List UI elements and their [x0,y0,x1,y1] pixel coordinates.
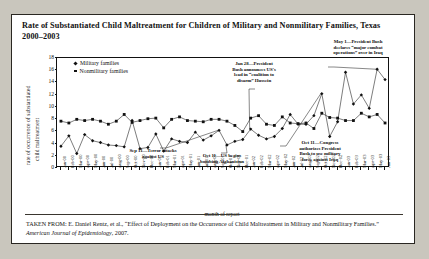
data-point-marker [233,124,236,127]
data-point-marker [123,113,126,116]
chart-area: rate of occurrence of substantiated chil… [12,15,416,245]
x-tick-mark [139,167,140,170]
data-point-marker [170,118,173,121]
data-point-marker [336,120,339,123]
data-point-marker [162,126,165,129]
x-tick-mark [281,167,282,170]
y-tick-label: 10 [48,103,54,109]
data-point-marker [289,122,292,125]
data-point-marker [313,127,316,130]
y-axis-label-line2: child maltreatment [34,118,40,161]
legend-item-nonmilitary: Nonmilitary families [74,67,128,75]
data-point-marker [139,119,142,122]
y-axis-label: rate of occurrence of substantiated chil… [18,57,28,167]
x-tick-label: May-00 [93,154,98,168]
data-point-marker [368,107,371,110]
x-tick-mark [179,167,180,170]
x-tick-mark [376,167,377,170]
x-tick-label: Apr-03 [370,155,375,168]
y-tick-mark [55,106,58,107]
y-tick-mark [55,57,58,58]
chart-legend: Military families Nonmilitary families [74,59,128,75]
y-tick-label: 18 [48,54,54,60]
x-tick-mark [258,167,259,170]
data-point-marker [344,119,347,122]
x-tick-mark [273,167,274,170]
annotation-line: bombing Afghanistan [184,159,260,165]
annotation-line: disarm” Hussein [212,78,296,84]
x-tick-mark [92,167,93,170]
annotation-line: force against Iraq [278,157,362,163]
data-point-marker [67,122,70,125]
x-tick-mark [226,167,227,170]
source-journal: American Journal of Epidemiology [26,230,112,236]
x-tick-label: Feb-00 [70,155,75,168]
x-tick-mark [171,167,172,170]
x-tick-mark [147,167,148,170]
x-tick-mark [155,167,156,170]
data-point-marker [225,143,228,146]
x-tick-mark [163,167,164,170]
legend-item-military: Military families [74,59,128,67]
x-tick-label: Jun-00 [101,156,106,168]
data-point-marker [336,117,339,120]
data-point-marker [83,119,86,122]
x-tick-label: Mar-02 [267,155,272,168]
x-tick-mark [186,167,187,170]
data-point-marker [376,113,379,116]
data-point-marker [170,137,173,140]
data-point-marker [305,122,308,125]
data-point-marker [352,119,355,122]
data-point-marker [257,114,260,117]
data-point-marker [147,117,150,120]
data-point-marker [178,115,181,118]
x-tick-label: Jan-00 [62,156,67,168]
x-tick-mark [313,167,314,170]
y-tick-label: 12 [48,91,54,97]
x-tick-mark [234,167,235,170]
data-point-marker [154,117,157,120]
x-tick-mark [242,167,243,170]
data-point-marker [265,137,268,140]
x-tick-mark [384,167,385,170]
data-point-marker [328,135,331,138]
legend-label-nonmilitary: Nonmilitary families [80,67,128,75]
data-point-marker [75,118,78,121]
data-point-marker [320,92,323,95]
data-point-marker [233,140,236,143]
annotation-oct11-afghanistan: Oct 11—US beginsbombing Afghanistan [184,153,260,164]
figure-panel: Rate of Substantiated Child Maltreatment… [11,14,415,244]
data-point-marker [368,115,371,118]
data-point-marker [384,122,387,125]
source-suffix: , 2007. [112,230,129,236]
data-point-marker [249,117,252,120]
x-tick-mark [352,167,353,170]
x-tick-mark [337,167,338,170]
data-point-marker [218,118,221,121]
y-tick-mark [55,81,58,82]
square-marker-icon [74,70,77,73]
y-tick-label: 16 [48,66,54,72]
x-tick-label: Mar-03 [362,155,367,168]
data-point-marker [328,116,331,119]
x-tick-mark [345,167,346,170]
x-tick-mark [265,167,266,170]
x-tick-label: Jun-03 [386,156,391,168]
data-point-marker [115,144,118,147]
data-point-marker [297,122,300,125]
x-tick-mark [250,167,251,170]
data-point-marker [210,118,213,121]
x-tick-mark [76,167,77,170]
data-point-marker [217,129,220,132]
y-tick-mark [55,118,58,119]
data-point-marker [115,120,118,123]
x-tick-label: Apr-00 [85,155,90,168]
annotation-oct11-congress: Oct 11—Congressauthorizes PresidentBush … [278,140,362,162]
source-prefix: TAKEN FROM: E. Daniel Rentz, et al., “Ef… [26,221,379,227]
annotation-jan28-coalition: Jan 28—PresidentBush announces US'slead … [212,61,296,83]
x-tick-mark [368,167,369,170]
data-point-marker [360,112,363,115]
data-point-marker [202,120,205,123]
data-point-marker [107,143,110,146]
data-point-marker [154,132,157,135]
